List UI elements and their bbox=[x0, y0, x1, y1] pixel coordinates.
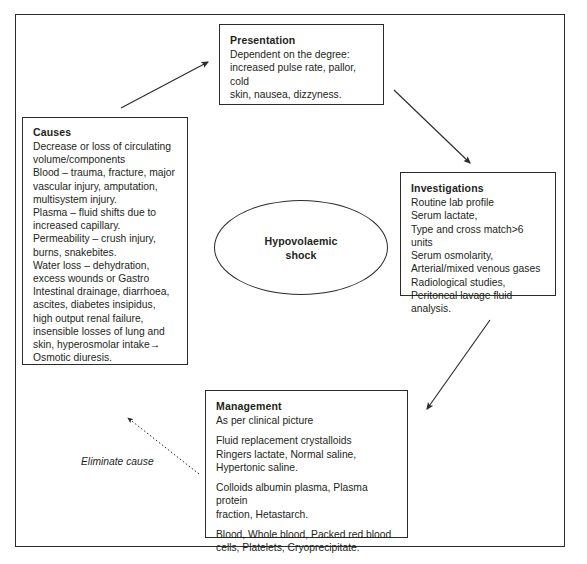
investigations-line: Routine lab profile bbox=[411, 196, 546, 209]
causes-term-blood-rest: – trauma, fracture, major bbox=[59, 167, 175, 178]
management-line: fraction, Hetastarch. bbox=[216, 508, 398, 521]
management-line: Hypertonic saline. bbox=[216, 461, 398, 474]
label-eliminate-cause: Eliminate cause bbox=[81, 455, 154, 468]
causes-term-blood: Blood bbox=[33, 167, 59, 178]
management-line: As per clinical picture bbox=[216, 414, 398, 427]
management-line: cells, Platelets, Cryoprecipitate. bbox=[216, 541, 398, 554]
investigations-line: Radiological studies, bbox=[411, 276, 546, 289]
diagram-canvas: Presentation Dependent on the degree: in… bbox=[0, 0, 587, 564]
investigations-title: Investigations bbox=[411, 181, 546, 195]
investigations-line: Serum lactate, bbox=[411, 209, 546, 222]
causes-term-plasma-rest: – fluid shifts due to bbox=[67, 207, 156, 218]
management-line: Fluid replacement crystalloids bbox=[216, 434, 398, 447]
box-management: Management As per clinical picture Fluid… bbox=[205, 390, 408, 538]
management-spacer bbox=[216, 521, 398, 528]
causes-line: excess wounds or Gastro bbox=[33, 272, 178, 285]
management-line: Blood, Whole blood, Packed red blood bbox=[216, 528, 398, 541]
causes-line: multisystem injury. bbox=[33, 193, 178, 206]
causes-line-blood: Blood – trauma, fracture, major bbox=[33, 166, 178, 179]
ellipse-label-line1: Hypovolaemic bbox=[264, 235, 337, 247]
causes-line: Decrease or loss of circulating bbox=[33, 140, 178, 153]
management-line: Ringers lactate, Normal saline, bbox=[216, 448, 398, 461]
investigations-line: Peritoneal lavage fluid analysis. bbox=[411, 289, 546, 316]
causes-line: skin, hyperosmolar intake→ bbox=[33, 338, 178, 351]
ellipse-label-line2: shock bbox=[285, 249, 316, 261]
investigations-line: Serum osmolarity, bbox=[411, 249, 546, 262]
presentation-line: skin, nausea, dizzyness. bbox=[230, 88, 374, 101]
causes-line: increased capillary. bbox=[33, 219, 178, 232]
causes-line: ascites, diabetes insipidus, bbox=[33, 298, 178, 311]
management-line: Colloids albumin plasma, Plasma protein bbox=[216, 481, 398, 508]
causes-line-water-loss: Water loss – dehydration, bbox=[33, 259, 178, 272]
investigations-line: Type and cross match>6 units bbox=[411, 223, 546, 250]
causes-line: high output renal failure, bbox=[33, 312, 178, 325]
causes-line-permeability: Permeability – crush injury, bbox=[33, 232, 178, 245]
ellipse-hypovolaemic-shock: Hypovolaemic shock bbox=[214, 200, 388, 295]
causes-line: Osmotic diuresis. bbox=[33, 351, 178, 364]
causes-term-permeability-rest: – crush injury, bbox=[90, 233, 156, 244]
causes-line: insensible losses of lung and bbox=[33, 325, 178, 338]
box-investigations: Investigations Routine lab profile Serum… bbox=[400, 172, 556, 296]
management-spacer bbox=[216, 474, 398, 481]
causes-term-permeability: Permeability bbox=[33, 233, 90, 244]
box-causes: Causes Decrease or loss of circulating v… bbox=[22, 117, 188, 365]
causes-line: vascular injury, amputation, bbox=[33, 180, 178, 193]
causes-line: volume/components bbox=[33, 153, 178, 166]
management-spacer bbox=[216, 427, 398, 434]
causes-term-water-loss-rest: – dehydration, bbox=[81, 260, 149, 271]
box-presentation: Presentation Dependent on the degree: in… bbox=[219, 24, 384, 105]
causes-term-water-loss: Water loss bbox=[33, 260, 81, 271]
ellipse-label: Hypovolaemic shock bbox=[264, 234, 337, 262]
causes-line-plasma: Plasma – fluid shifts due to bbox=[33, 206, 178, 219]
causes-term-plasma: Plasma bbox=[33, 207, 67, 218]
causes-line: burns, snakebites. bbox=[33, 246, 178, 259]
presentation-line: Dependent on the degree: bbox=[230, 48, 374, 61]
presentation-line: increased pulse rate, pallor, cold bbox=[230, 61, 374, 88]
causes-title: Causes bbox=[33, 125, 178, 139]
causes-line: Intestinal drainage, diarrhoea, bbox=[33, 285, 178, 298]
presentation-title: Presentation bbox=[230, 33, 374, 47]
management-title: Management bbox=[216, 399, 398, 413]
investigations-line: Arterial/mixed venous gases bbox=[411, 262, 546, 275]
